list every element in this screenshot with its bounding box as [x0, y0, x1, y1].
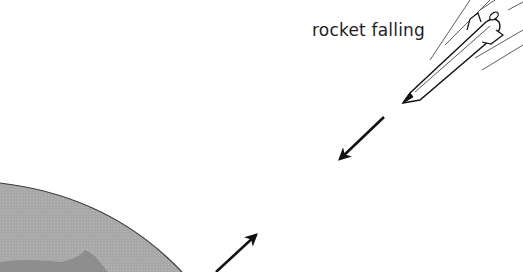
rocket-icon	[403, 0, 523, 103]
earth	[0, 183, 182, 272]
diagram-svg	[0, 0, 523, 272]
rocket-falling-label: rocket falling	[312, 20, 425, 40]
diagram-canvas: rocket falling	[0, 0, 523, 272]
downward-arrow-icon	[340, 117, 384, 159]
upward-arrow-icon	[216, 235, 256, 272]
